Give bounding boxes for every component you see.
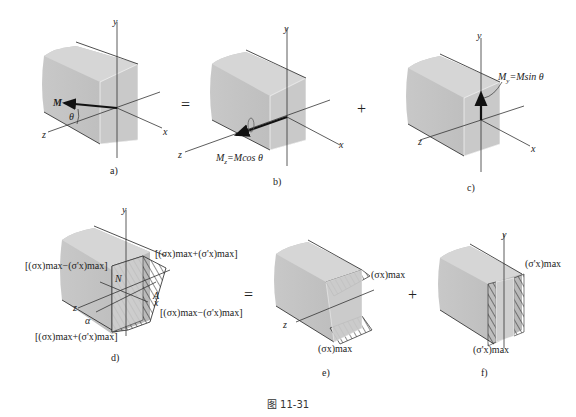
panel-b-label: b) xyxy=(273,176,281,187)
panel-d-neutral-A: A xyxy=(153,291,159,301)
panel-a-axis-x: x xyxy=(163,127,167,137)
panel-a-axis-z: z xyxy=(42,130,46,140)
panel-c-axis-y: y xyxy=(477,31,481,41)
panel-d-stress-top-right: [(σx)max+(σ'x)max] xyxy=(155,249,238,259)
panel-a-angle-label: θ xyxy=(69,112,74,122)
panel-d-stress-top-left: [(σx)max−(σ'x)max] xyxy=(25,261,108,271)
panel-e-block xyxy=(274,240,374,344)
panel-d-stress-bottom-left: [(σx)max+(σ'x)max] xyxy=(35,332,118,342)
panel-c-moment-label: My=Msin θ xyxy=(498,72,544,85)
panel-b-axis-y: y xyxy=(284,24,288,34)
equals-operator: = xyxy=(181,96,190,114)
panel-e-stress-top: (σx)max xyxy=(371,270,405,280)
panel-c-block xyxy=(406,38,530,172)
panel-b-axis-z: z xyxy=(178,150,182,160)
panel-a-label: a) xyxy=(110,165,118,176)
panel-d-axis-y: y xyxy=(122,205,126,215)
panel-d-angle-alpha: α xyxy=(85,316,90,326)
panel-d-stress-bottom-right: [(σx)max−(σ'x)max] xyxy=(160,308,243,318)
figure-caption: 图 11-31 xyxy=(0,396,576,411)
panel-f-stress-bottom: (σ'x)max xyxy=(473,345,509,355)
plus-operator: + xyxy=(357,100,366,118)
panel-e-axis-z: z xyxy=(283,320,287,330)
equals-operator-2: = xyxy=(244,286,253,304)
panel-f-axis-y: y xyxy=(502,230,506,240)
panel-e-label: e) xyxy=(322,367,330,378)
panel-b-moment-label: Mz=Mcos θ xyxy=(216,153,263,166)
panel-d-label: d) xyxy=(111,352,119,363)
panel-a-moment-label: M xyxy=(53,98,62,108)
panel-b-axis-x: x xyxy=(339,140,343,150)
panel-f-block xyxy=(438,234,524,348)
panel-e-stress-bottom: (σx)max xyxy=(318,344,352,354)
panel-a-axis-y: y xyxy=(113,17,117,27)
panel-d-neutral-N: N xyxy=(115,274,122,284)
panel-c-axis-x: x xyxy=(531,144,535,154)
panel-d-axis-z: z xyxy=(73,303,77,313)
panel-f-label: f) xyxy=(481,367,488,378)
panel-c-label: c) xyxy=(467,182,475,193)
panel-f-stress-top: (σ'x)max xyxy=(525,259,561,269)
panel-c-axis-z: z xyxy=(418,137,422,147)
panel-a-block xyxy=(42,22,162,158)
panel-b-block xyxy=(185,28,340,166)
plus-operator-2: + xyxy=(408,286,417,304)
